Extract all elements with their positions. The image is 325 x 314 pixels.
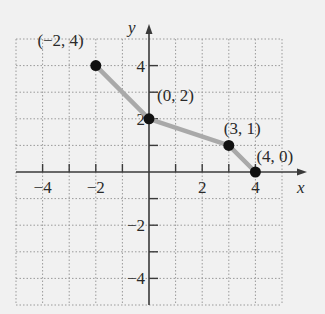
x-tick-label: −4 xyxy=(34,178,53,197)
y-tick-label: 4 xyxy=(137,57,146,76)
data-point xyxy=(223,140,234,151)
data-point-label: (−2, 4) xyxy=(37,31,83,50)
data-point xyxy=(250,167,261,178)
y-tick-label: −4 xyxy=(127,269,146,288)
data-point xyxy=(144,113,155,124)
x-tick-label: 4 xyxy=(251,178,260,197)
coordinate-plot: −4−22442−2−4 (−2, 4)(0, 2)(3, 1)(4, 0) x… xyxy=(0,0,325,314)
x-axis-arrow-icon xyxy=(297,169,307,176)
data-point-label: (3, 1) xyxy=(224,119,261,138)
data-point-label: (0, 2) xyxy=(157,86,194,105)
y-axis-arrow-icon xyxy=(146,24,153,34)
y-axis-label: y xyxy=(126,18,136,37)
y-tick-label: −2 xyxy=(127,216,145,235)
x-tick-label: −2 xyxy=(87,178,105,197)
x-axis-label: x xyxy=(296,178,305,197)
x-tick-label: 2 xyxy=(198,178,207,197)
data-point-label: (4, 0) xyxy=(256,147,293,166)
data-point xyxy=(90,60,101,71)
